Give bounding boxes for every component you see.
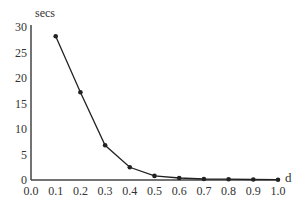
x-tick-label: 0.3 xyxy=(98,184,113,198)
x-tick-label: 0.7 xyxy=(196,184,211,198)
line-chart: 051015202530 0.00.10.20.30.40.50.60.70.8… xyxy=(0,0,301,205)
y-tick-label: 15 xyxy=(15,97,27,111)
x-tick-label: 0.9 xyxy=(246,184,261,198)
data-point xyxy=(128,165,133,170)
data-point xyxy=(103,143,108,148)
data-point xyxy=(226,177,231,182)
series-line xyxy=(56,36,278,180)
data-series xyxy=(53,34,280,182)
y-tick-label: 10 xyxy=(15,122,27,136)
x-tick-labels: 0.00.10.20.30.40.50.60.70.80.91.0 xyxy=(24,184,286,198)
y-tick-label: 30 xyxy=(15,20,27,34)
x-tick-label: 1.0 xyxy=(271,184,286,198)
chart-canvas: 051015202530 0.00.10.20.30.40.50.60.70.8… xyxy=(0,0,301,205)
y-tick-label: 25 xyxy=(15,46,27,60)
data-point xyxy=(202,177,207,182)
y-tick-label: 20 xyxy=(15,71,27,85)
x-tick-label: 0.6 xyxy=(172,184,187,198)
x-tick-label: 0.5 xyxy=(147,184,162,198)
data-point xyxy=(152,174,157,179)
x-tick-label: 0.8 xyxy=(221,184,236,198)
data-point xyxy=(276,177,281,182)
data-point xyxy=(251,177,256,182)
x-tick-label: 0.0 xyxy=(24,184,39,198)
x-tick-label: 0.4 xyxy=(122,184,137,198)
data-point xyxy=(53,34,58,39)
x-tick-label: 0.1 xyxy=(48,184,63,198)
y-axis-label: secs xyxy=(35,6,55,20)
data-point xyxy=(78,90,83,95)
axes xyxy=(31,25,280,180)
y-tick-labels: 051015202530 xyxy=(15,20,27,187)
data-point xyxy=(177,176,182,181)
y-tick-label: 5 xyxy=(21,148,27,162)
x-axis-label: d xyxy=(285,170,292,185)
x-tick-label: 0.2 xyxy=(73,184,88,198)
